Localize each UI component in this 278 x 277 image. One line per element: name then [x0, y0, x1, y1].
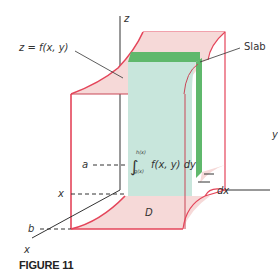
slab-label: Slab: [244, 41, 266, 52]
surface-leader: [75, 51, 123, 78]
x-tick-label: x: [57, 188, 64, 199]
slab-side: [196, 58, 202, 178]
integral-upper-limit: h(x): [136, 149, 146, 155]
z-axis-label: z: [123, 13, 130, 24]
b-label: b: [28, 223, 34, 234]
dx-label: dx: [217, 185, 229, 196]
figure-caption: FIGURE 11: [19, 259, 74, 271]
x-axis-label: x: [23, 244, 30, 255]
surface-label: z = f(x, y): [18, 42, 69, 53]
region-d-label: D: [145, 207, 153, 218]
region-d-floor: [71, 196, 210, 229]
integrand: f(x, y) dy: [151, 159, 197, 170]
slab-top: [128, 52, 200, 62]
y-axis-label: y: [271, 129, 278, 140]
double-integral-slab-diagram: z z = f(x, y) Slab y a x b x D dx ∫ h(x)…: [0, 0, 278, 277]
integral-lower-limit: g(x): [134, 168, 144, 175]
a-label: a: [82, 159, 88, 170]
